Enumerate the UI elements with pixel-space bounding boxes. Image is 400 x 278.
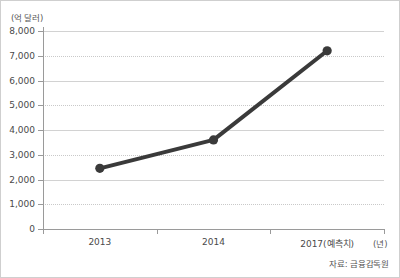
y-axis-labels: 01,0002,0003,0004,0005,0006,0007,0008,00… xyxy=(1,1,35,278)
y-axis-tick xyxy=(38,130,43,131)
x-axis-tick-label: 2014 xyxy=(202,237,225,247)
y-axis-tick-label: 5,000 xyxy=(1,100,35,110)
y-axis-tick-label: 2,000 xyxy=(1,175,35,185)
x-axis-tick-label: 2013 xyxy=(88,237,111,247)
gridline xyxy=(43,56,384,57)
plot-area xyxy=(43,31,384,229)
y-axis-tick xyxy=(38,105,43,106)
gridline xyxy=(43,204,384,205)
gridline xyxy=(43,81,384,82)
source-note: 자료: 금융감독원 xyxy=(329,257,389,269)
gridline xyxy=(43,31,384,32)
y-axis-tick xyxy=(38,180,43,181)
x-axis-tick-label: 2017(예측치) xyxy=(300,237,354,250)
gridline xyxy=(43,155,384,156)
y-axis-tick-label: 7,000 xyxy=(1,51,35,61)
x-axis-line xyxy=(43,229,384,230)
gridline xyxy=(43,180,384,181)
x-axis-tick xyxy=(157,229,158,234)
gridline xyxy=(43,130,384,131)
y-axis-tick-label: 3,000 xyxy=(1,150,35,160)
y-axis-tick-label: 4,000 xyxy=(1,125,35,135)
y-axis-tick xyxy=(38,31,43,32)
gridline xyxy=(43,105,384,106)
x-axis-tick xyxy=(384,229,385,234)
y-axis-tick xyxy=(38,155,43,156)
chart-figure: (억 달러) 01,0002,0003,0004,0005,0006,0007,… xyxy=(0,0,400,278)
x-axis-unit-label: (년) xyxy=(373,237,388,249)
x-axis-tick xyxy=(270,229,271,234)
y-axis-tick xyxy=(38,81,43,82)
y-axis-tick xyxy=(38,56,43,57)
y-axis-tick-label: 0 xyxy=(1,224,35,234)
y-axis-line xyxy=(43,27,44,233)
y-axis-tick-label: 8,000 xyxy=(1,26,35,36)
y-axis-tick-label: 1,000 xyxy=(1,199,35,209)
x-axis-origin-tick xyxy=(43,229,44,234)
y-axis-tick xyxy=(38,204,43,205)
y-axis-tick-label: 6,000 xyxy=(1,76,35,86)
